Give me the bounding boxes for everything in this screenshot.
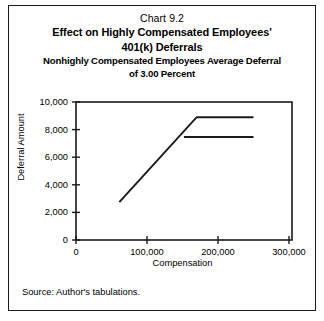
y-tick-label: 6,000 [22, 152, 68, 162]
y-tick-label: 4,000 [22, 180, 68, 190]
x-tick-label: 100,000 [112, 247, 182, 257]
chart-page: Chart 9.2 Effect on Highly Compensated E… [0, 0, 324, 321]
x-tick-label: 200,000 [183, 247, 253, 257]
chart-plot-area: Deferral Amount Compensation 02,0004,000… [0, 0, 324, 321]
y-tick-label: 0 [22, 235, 68, 245]
data-lines [119, 117, 253, 202]
y-tick-label: 2,000 [22, 207, 68, 217]
axis-ticks [72, 102, 289, 244]
y-tick-label: 10,000 [22, 97, 68, 107]
data-line-1 [119, 117, 253, 202]
y-tick-label: 8,000 [22, 125, 68, 135]
source-note: Source: Author's tabulations. [22, 287, 140, 297]
x-tick-label: 0 [41, 247, 111, 257]
plot-frame [76, 102, 292, 240]
x-tick-label: 300,000 [254, 247, 324, 257]
